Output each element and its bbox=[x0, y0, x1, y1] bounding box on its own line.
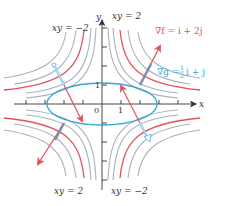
level-curve-q2-c06 bbox=[26, 28, 96, 98]
grad-g-arrow-q3 bbox=[55, 123, 64, 140]
level-curve-q4-c06 bbox=[108, 110, 178, 180]
level-curve-q1-c06 bbox=[108, 28, 178, 98]
label-xy-2-bottom: xy = 2 bbox=[54, 186, 83, 196]
level-curve-xy-2-q1 bbox=[120, 30, 200, 90]
x-tick-label-1: 1 bbox=[118, 106, 123, 115]
axes bbox=[14, 20, 196, 190]
level-curve-q3-c06 bbox=[26, 110, 96, 180]
label-xy-2-top: xy = 2 bbox=[112, 11, 141, 21]
gradient-vectors bbox=[38, 46, 160, 164]
svg-text:i + j: i + j bbox=[186, 67, 205, 77]
level-curve-xy-2-q3 bbox=[4, 118, 84, 178]
lagrange-diagram: y x 0 1 1 xy = −2 xy = 2 xy = 2 xy = −2 … bbox=[0, 0, 228, 206]
grad-g-label: ∇g = 1 2 i + j bbox=[157, 64, 205, 79]
y-axis-label: y bbox=[95, 12, 102, 22]
svg-text:1: 1 bbox=[180, 64, 184, 71]
origin-label: 0 bbox=[94, 106, 99, 115]
grad-f-label: ∇f = i + 2j bbox=[155, 26, 203, 36]
level-curve-xy-neg2-q2 bbox=[4, 30, 84, 90]
label-xy-neg2-bottom: xy = −2 bbox=[111, 186, 148, 196]
label-xy-neg2-top: xy = −2 bbox=[52, 23, 89, 33]
svg-text:∇g =: ∇g = bbox=[157, 67, 179, 77]
svg-text:2: 2 bbox=[180, 72, 184, 79]
level-curve-xy-neg2-q4 bbox=[120, 118, 200, 178]
grad-f-arrow-q2 bbox=[64, 85, 82, 121]
y-tick-label-1: 1 bbox=[95, 81, 100, 90]
x-axis-label: x bbox=[199, 99, 204, 109]
grad-f-arrow-q4 bbox=[121, 86, 140, 123]
